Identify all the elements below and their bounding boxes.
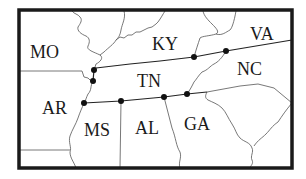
state-label-tn: TN <box>137 71 161 91</box>
border-point-dot <box>223 48 229 54</box>
border-point-dot <box>91 67 97 73</box>
map-canvas: MOKYVATNNCARMSALGA <box>0 0 306 179</box>
ky-wv-border <box>194 11 218 57</box>
state-label-al: AL <box>135 118 159 138</box>
il-in-border <box>100 11 125 55</box>
state-label-mo: MO <box>30 42 59 62</box>
state-label-ar: AR <box>42 98 67 118</box>
ms-al-border <box>120 101 121 168</box>
state-label-ga: GA <box>184 114 210 134</box>
mo-il-border <box>72 11 102 70</box>
state-label-nc: NC <box>237 59 262 79</box>
mo-ar-border <box>20 71 93 81</box>
state-labels: MOKYVATNNCARMSALGA <box>30 24 274 140</box>
nc-sc-border <box>207 84 292 103</box>
border-point-dot <box>118 98 124 104</box>
border-point-dot <box>90 78 96 84</box>
border-point-dot <box>191 54 197 60</box>
sc-coast <box>254 103 292 146</box>
state-label-ky: KY <box>152 34 178 54</box>
state-label-ms: MS <box>84 120 110 140</box>
ga-sc-border <box>206 92 253 168</box>
border-point-dot <box>81 100 87 106</box>
border-point-dot <box>161 94 167 100</box>
state-label-va: VA <box>250 24 274 44</box>
wv-va-border <box>216 11 236 35</box>
border-point-dot <box>184 91 190 97</box>
al-ga-border <box>164 97 181 168</box>
